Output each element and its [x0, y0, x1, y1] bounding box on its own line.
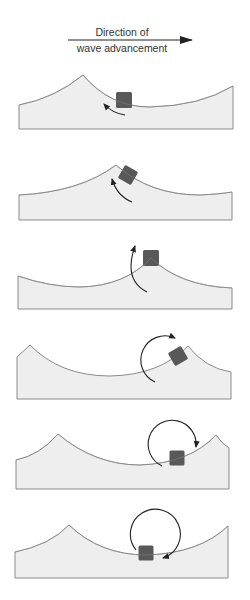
- water-particle-icon: [139, 546, 154, 561]
- panel-5: [16, 420, 229, 489]
- direction-label-line1: Direction of: [62, 26, 182, 38]
- orbital-path-arrow-icon: [130, 509, 180, 558]
- wave-panels: [15, 75, 233, 578]
- water-particle-icon: [116, 92, 132, 108]
- wave-shape: [15, 525, 228, 578]
- direction-label-line2: wave advancement: [62, 42, 182, 54]
- wave-shape: [16, 434, 229, 489]
- panel-3: [18, 246, 232, 309]
- wave-orbital-motion-diagram: [0, 0, 250, 600]
- panel-1: [19, 75, 233, 129]
- panel-4: [17, 336, 231, 399]
- water-particle-icon: [170, 451, 185, 466]
- wave-shape: [17, 345, 231, 399]
- panel-6: [15, 509, 228, 578]
- panel-2: [19, 165, 232, 220]
